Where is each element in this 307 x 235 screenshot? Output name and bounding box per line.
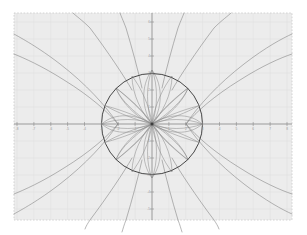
x-tick-label: 6 xyxy=(252,127,254,131)
x-tick-label: 5 xyxy=(236,127,238,131)
y-tick-label: 3 xyxy=(148,71,150,75)
origin-dot xyxy=(151,123,154,126)
y-tick-label: 1 xyxy=(148,105,150,109)
x-tick-label: 3 xyxy=(202,127,204,131)
y-tick-label: 5 xyxy=(148,37,150,41)
figure-container: -8 -7 -6 -5 -4 -3 -2 -1 1 2 3 4 5 6 7 8 … xyxy=(0,0,307,235)
y-tick-label: -3 xyxy=(147,173,150,177)
y-tick-label: -1 xyxy=(147,139,150,143)
polar-curve-plot[interactable]: -8 -7 -6 -5 -4 -3 -2 -1 1 2 3 4 5 6 7 8 … xyxy=(0,0,307,235)
y-tick-label: 2 xyxy=(148,88,150,92)
x-tick-label: -6 xyxy=(49,127,52,131)
x-tick-label: 2 xyxy=(185,127,187,131)
x-tick-label: 4 xyxy=(219,127,221,131)
x-tick-label: -5 xyxy=(66,127,69,131)
x-tick-label: -3 xyxy=(100,127,103,131)
x-tick-label: -7 xyxy=(33,127,36,131)
x-tick-label: -1 xyxy=(134,127,137,131)
x-tick-label: 8 xyxy=(286,127,288,131)
x-tick-label: 1 xyxy=(168,127,170,131)
x-tick-label: -2 xyxy=(117,127,120,131)
x-tick-label: -8 xyxy=(16,127,19,131)
y-tick-label: 6 xyxy=(148,20,150,24)
y-tick-label: -4 xyxy=(147,190,150,194)
y-tick-label: 4 xyxy=(148,54,150,58)
x-tick-label: -4 xyxy=(83,127,86,131)
y-tick-label: -2 xyxy=(147,156,150,160)
x-tick-label: 7 xyxy=(269,127,271,131)
y-tick-label: -5 xyxy=(147,207,150,211)
